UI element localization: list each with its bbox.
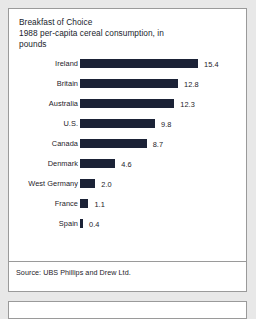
bar-row: U.S.9.8 [9,116,246,136]
bar-row: France1.1 [9,196,246,216]
bar-chart-plot: Ireland15.4Britain12.8Australia12.3U.S.9… [9,56,246,236]
bar-row: Australia12.3 [9,96,246,116]
bar [80,79,178,88]
bar [80,219,83,228]
bar-row: Canada8.7 [9,136,246,156]
bar [80,199,88,208]
category-label: Britain [57,79,78,88]
chart-title: Breakfast of Choice 1988 per-capita cere… [19,17,229,51]
value-label: 9.8 [161,120,171,129]
value-label: 8.7 [153,140,163,149]
bar [80,159,115,168]
bar [80,59,198,68]
category-label: France [55,199,78,208]
value-label: 0.4 [89,220,99,229]
chart-title-line-1: Breakfast of Choice [19,17,229,28]
bar-track: 9.8 [80,119,242,128]
bar [80,139,147,148]
chart-title-line-3: pounds [19,39,229,50]
source-note: Source: UBS Phillips and Drew Ltd. [16,268,131,277]
bar [80,119,155,128]
value-label: 1.1 [94,200,104,209]
chart-card: Breakfast of Choice 1988 per-capita cere… [8,8,247,292]
value-label: 15.4 [204,60,219,69]
bar-track: 1.1 [80,199,242,208]
value-label: 4.6 [121,160,131,169]
bar-track: 8.7 [80,139,242,148]
bar-track: 4.6 [80,159,242,168]
value-label: 12.8 [184,80,199,89]
bar-track: 2.0 [80,179,242,188]
bar [80,99,174,108]
source-divider [9,261,246,262]
bar-track: 0.4 [80,219,242,228]
category-label: Denmark [48,159,78,168]
value-label: 12.3 [180,100,195,109]
bar-track: 12.8 [80,79,242,88]
bar-row: West Germany2.0 [9,176,246,196]
category-label: West Germany [28,179,78,188]
bar-row: Denmark4.6 [9,156,246,176]
bar-row: Spain0.4 [9,216,246,236]
category-label: Ireland [55,59,78,68]
bar-track: 15.4 [80,59,242,68]
bar-row: Britain12.8 [9,76,246,96]
value-label: 2.0 [101,180,111,189]
category-label: Spain [59,219,78,228]
next-page-card [8,301,247,319]
bar-track: 12.3 [80,99,242,108]
chart-title-line-2: 1988 per-capita cereal consumption, in [19,28,229,39]
bar-row: Ireland15.4 [9,56,246,76]
category-label: Australia [49,99,78,108]
bar [80,179,95,188]
category-label: Canada [52,139,78,148]
category-label: U.S. [63,119,78,128]
